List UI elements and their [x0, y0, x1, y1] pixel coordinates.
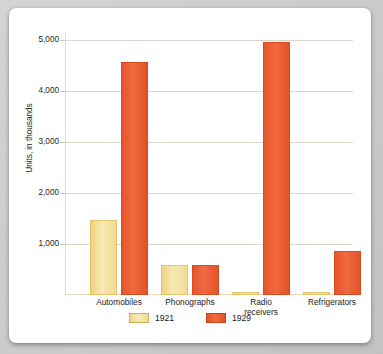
chart-legend: 1921 1929: [9, 313, 371, 323]
figure-card: Units, in thousands 5,000 4,000 3,000 2,…: [9, 8, 371, 343]
y-tick-label-3000: 3,000: [0, 137, 59, 146]
y-tick-mark-3000: [60, 142, 65, 143]
legend-swatch-icon-1929: [206, 313, 226, 323]
y-tick-mark-1000: [60, 244, 65, 245]
x-axis-label-refrigerators: Refrigerators: [282, 298, 382, 308]
plot-area: 5,000 4,000 3,000 2,000 1,000 Automobile…: [65, 32, 353, 295]
y-tick-label-4000: 4,000: [0, 86, 59, 95]
bar-refrigerators-1921[interactable]: [303, 292, 330, 295]
bar-chart: Units, in thousands 5,000 4,000 3,000 2,…: [9, 8, 371, 343]
bar-phonographs-1929[interactable]: [192, 265, 219, 295]
y-tick-mark-5000: [60, 40, 65, 41]
bar-automobiles-1929[interactable]: [121, 62, 148, 295]
legend-entry-1929[interactable]: 1929: [206, 313, 251, 323]
y-tick-label-2000: 2,000: [0, 188, 59, 197]
y-tick-label-5000: 5,000: [0, 35, 59, 44]
y-tick-mark-2000: [60, 193, 65, 194]
gridline-4000: [65, 91, 353, 92]
legend-entry-1921[interactable]: 1921: [129, 313, 174, 323]
gridline-2000: [65, 193, 353, 194]
legend-label-1929: 1929: [232, 313, 251, 323]
y-tick-label-1000: 1,000: [0, 239, 59, 248]
gridline-5000: [65, 40, 353, 41]
legend-label-1921: 1921: [155, 313, 174, 323]
bar-radio-receivers-1929[interactable]: [263, 42, 290, 295]
legend-swatch-icon-1921: [129, 313, 149, 323]
gridline-3000: [65, 142, 353, 143]
bar-refrigerators-1929[interactable]: [334, 251, 361, 295]
y-axis-line: [65, 32, 66, 295]
y-tick-mark-4000: [60, 91, 65, 92]
bar-radio-receivers-1921[interactable]: [232, 292, 259, 295]
bar-phonographs-1921[interactable]: [161, 265, 188, 295]
bar-automobiles-1921[interactable]: [90, 220, 117, 295]
